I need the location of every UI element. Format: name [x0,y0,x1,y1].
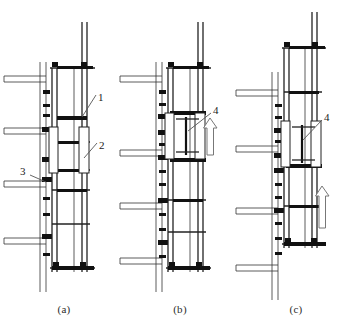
callout-label-3: 3 [20,166,26,177]
callout-label-4-panel-b: 4 [213,105,219,116]
panel-c-drawing [236,12,329,300]
callout-label-2: 2 [99,140,105,151]
panel-caption-c: (c) [276,303,316,315]
figure-canvas: 1 2 3 4 4 (a) (b) (c) [0,0,338,326]
panel-b-drawing [120,22,217,292]
motion-arrow-up-b [204,118,218,155]
callout-label-4-panel-c: 4 [324,112,330,123]
panel-caption-a: (a) [44,303,84,315]
guide-seat-bracket-a [49,127,89,173]
panel-caption-b: (b) [160,303,200,315]
scaffold-diagram-svg [0,0,338,326]
panel-a-drawing [4,22,97,292]
electric-hoist-b [165,113,205,159]
callout-label-1: 1 [98,92,104,103]
